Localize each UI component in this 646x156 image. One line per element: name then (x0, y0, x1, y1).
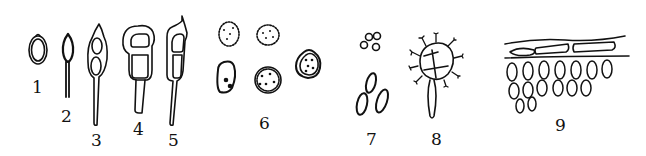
label-8: 8 (431, 131, 442, 148)
specimen-7-small-and-elongate-spores (355, 33, 391, 116)
label-6: 6 (259, 115, 270, 132)
label-1: 1 (32, 79, 43, 96)
spore-illustration: 1 2 3 4 5 6 7 8 9 (0, 0, 646, 156)
specimen-2-stalked-spore (63, 34, 73, 97)
label-7: 7 (366, 131, 377, 148)
label-2: 2 (61, 108, 72, 125)
specimen-3-two-celled-spore (88, 24, 107, 125)
label-3: 3 (91, 132, 102, 149)
label-9: 9 (555, 117, 566, 134)
label-5: 5 (168, 132, 179, 149)
label-4: 4 (133, 121, 144, 138)
specimen-9-tissue-section (505, 36, 629, 113)
specimen-4-large-spore (123, 26, 154, 113)
specimen-5-pointed-spore (167, 16, 187, 125)
specimen-8-appendaged-spore (409, 33, 463, 118)
specimen-6-spiny-spores (217, 22, 320, 93)
specimen-1-oval-spore (29, 35, 47, 65)
